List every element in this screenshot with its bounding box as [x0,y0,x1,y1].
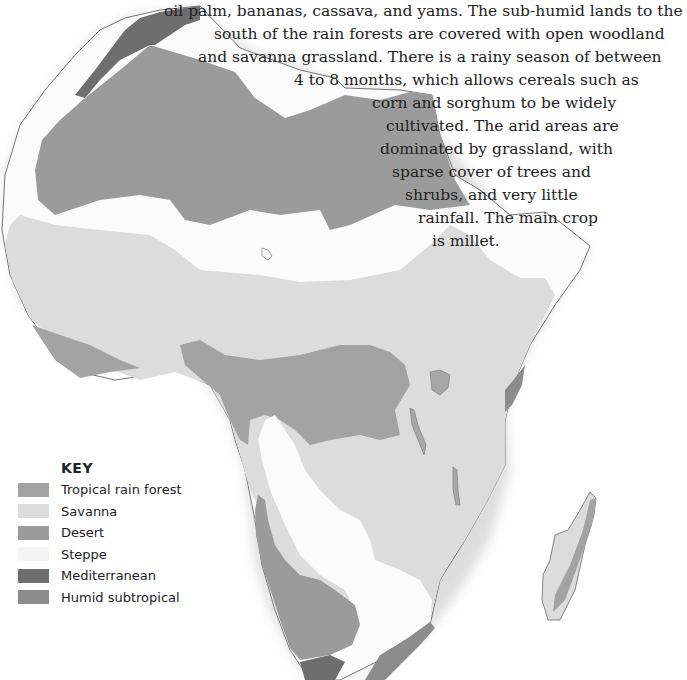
text-line-10: rainfall. The main crop [418,207,598,230]
text-line-3: and savanna grassland. There is a rainy … [198,46,662,69]
key-label: Tropical rain forest [61,482,182,497]
text-line-2: south of the rain forests are covered wi… [214,23,665,46]
text-line-6: cultivated. The arid areas are [386,115,619,138]
text-line-4: 4 to 8 months, which allows cereals such… [294,69,639,92]
map-key: KEY Tropical rain forest Savanna Desert … [18,460,182,608]
key-item-mediterranean: Mediterranean [18,565,182,587]
key-label: Savanna [61,504,117,519]
text-line-11: is millet. [432,230,500,253]
key-label: Mediterranean [61,568,156,583]
key-item-humid-subtropical: Humid subtropical [18,587,182,609]
text-line-8: sparse cover of trees and [392,161,591,184]
swatch-tropical-rain-forest [18,483,49,497]
swatch-humid-subtropical [18,590,49,604]
key-label: Humid subtropical [61,590,180,605]
text-line-9: shrubs, and very little [405,184,578,207]
key-item-steppe: Steppe [18,544,182,566]
key-title: KEY [61,460,182,476]
text-line-5: corn and sorghum to be widely [372,92,616,115]
key-label: Steppe [61,547,107,562]
swatch-steppe [18,547,49,561]
swatch-desert [18,526,49,540]
swatch-mediterranean [18,569,49,583]
key-item-savanna: Savanna [18,501,182,523]
key-item-desert: Desert [18,522,182,544]
text-line-1: oil palm, bananas, cassava, and yams. Th… [164,0,683,23]
text-line-7: dominated by grassland, with [380,138,613,161]
key-item-tropical-rain-forest: Tropical rain forest [18,479,182,501]
key-label: Desert [61,525,104,540]
swatch-savanna [18,504,49,518]
